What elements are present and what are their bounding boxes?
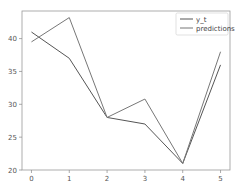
x-tick-label: 0 [29, 175, 33, 183]
y-tick-label: 30 [8, 101, 17, 109]
legend-label-y-t: y_t [196, 16, 207, 24]
legend: y_t predictions [176, 13, 235, 35]
y-tick-label: 25 [8, 134, 17, 142]
x-tick-label: 4 [180, 175, 185, 183]
x-axis: 012345 [29, 170, 223, 183]
x-tick-label: 1 [67, 175, 71, 183]
y-tick-label: 40 [8, 35, 17, 43]
y-tick-label: 35 [8, 68, 17, 76]
y-tick-label: 20 [8, 167, 17, 175]
x-tick-label: 5 [218, 175, 222, 183]
x-tick-label: 2 [105, 175, 109, 183]
line-chart: 2025303540 012345 y_t predictions [0, 0, 241, 195]
legend-label-predictions: predictions [196, 25, 235, 33]
y-axis: 2025303540 [8, 35, 22, 174]
x-tick-label: 3 [143, 175, 147, 183]
